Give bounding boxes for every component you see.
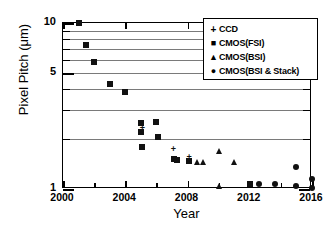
- plus-icon: +: [208, 24, 219, 35]
- legend-label: CMOS(FSI): [219, 38, 264, 48]
- y-tick: [63, 49, 70, 50]
- data-point-cmos-fsi: [153, 119, 159, 125]
- triangle-icon: ▲: [208, 52, 219, 62]
- data-point-cmos-bsi-stack: [293, 183, 299, 189]
- data-point-cmos-fsi: [186, 158, 192, 164]
- y-tick-label: 5: [16, 66, 56, 77]
- x-tick-label: 2016: [289, 192, 333, 203]
- x-tick: [63, 181, 65, 187]
- circle-icon: ●: [208, 66, 219, 76]
- x-tick-minor: [156, 183, 158, 187]
- y-tick: [303, 89, 310, 90]
- data-point-cmos-bsi-stack: [309, 176, 315, 182]
- x-tick-label: 2008: [165, 192, 209, 203]
- y-tick: [303, 110, 310, 111]
- data-point-cmos-bsi-stack: [293, 164, 299, 170]
- y-tick: [63, 110, 70, 111]
- data-point-cmos-bsi-stack: [256, 181, 262, 187]
- x-axis-title: Year: [62, 206, 311, 221]
- y-tick: [303, 139, 310, 140]
- x-tick-label: 2004: [102, 192, 146, 203]
- x-tick: [188, 181, 190, 187]
- square-icon: ■: [208, 38, 219, 48]
- x-tick-label: 2000: [40, 192, 84, 203]
- y-tick: [63, 23, 74, 25]
- x-tick: [125, 181, 127, 187]
- y-tick: [63, 89, 70, 90]
- legend-item-cmos-bsi-stack: ● CMOS(BSI & Stack): [208, 64, 317, 78]
- chart-legend: + CCD ■ CMOS(FSI) ▲ CMOS(BSI) ● CMOS(BSI…: [203, 18, 318, 80]
- chart-figure: +++ Pixel Pitch (μm) Year + CCD ■ CMOS(F…: [0, 0, 333, 237]
- data-point-cmos-fsi: [122, 89, 128, 95]
- legend-label: CMOS(BSI): [219, 52, 265, 62]
- y-tick: [63, 139, 70, 140]
- data-point-cmos-fsi: [76, 20, 82, 26]
- gridline: [63, 89, 310, 90]
- y-tick: [63, 73, 74, 75]
- x-tick: [63, 23, 65, 29]
- x-tick-minor: [94, 183, 96, 187]
- data-point-cmos-bsi-stack: [309, 185, 315, 191]
- legend-item-cmos-fsi: ■ CMOS(FSI): [208, 36, 317, 50]
- data-point-cmos-bsi: [216, 148, 222, 154]
- data-point-cmos-bsi: [200, 159, 206, 165]
- legend-label: CCD: [219, 24, 238, 34]
- data-point-cmos-bsi: [194, 159, 200, 165]
- y-tick: [63, 31, 70, 32]
- y-tick: [63, 60, 70, 61]
- x-tick: [125, 23, 127, 29]
- y-tick-label: 10: [16, 16, 56, 27]
- data-point-cmos-fsi: [139, 144, 145, 150]
- data-point-cmos-fsi: [247, 181, 253, 187]
- data-point-cmos-bsi-stack: [272, 181, 278, 187]
- data-point-cmos-fsi: [138, 120, 144, 126]
- legend-item-ccd: + CCD: [208, 22, 317, 36]
- data-point-ccd: +: [170, 145, 177, 152]
- legend-item-cmos-bsi: ▲ CMOS(BSI): [208, 50, 317, 64]
- gridline: [63, 139, 310, 140]
- data-point-cmos-fsi: [83, 42, 89, 48]
- x-tick-minor: [281, 183, 283, 187]
- legend-label: CMOS(BSI & Stack): [219, 66, 299, 76]
- data-point-cmos-fsi: [174, 157, 180, 163]
- data-point-cmos-fsi: [138, 129, 144, 135]
- data-point-cmos-bsi: [216, 183, 222, 189]
- gridline: [63, 110, 310, 111]
- data-point-cmos-bsi: [231, 159, 237, 165]
- data-point-cmos-fsi: [107, 81, 113, 87]
- x-tick: [188, 23, 190, 29]
- y-tick: [63, 39, 70, 40]
- data-point-cmos-fsi: [155, 134, 161, 140]
- data-point-cmos-fsi: [91, 59, 97, 65]
- x-tick-label: 2012: [227, 192, 271, 203]
